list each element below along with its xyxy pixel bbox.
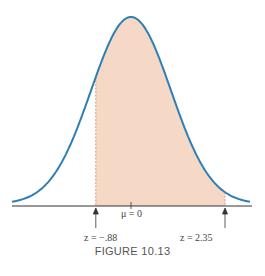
- z-left-label: z = −.88: [84, 232, 117, 243]
- normal-curve-figure: [0, 0, 265, 276]
- z-right-label: z = 2.35: [180, 232, 213, 243]
- figure-caption: FIGURE 10.13: [0, 245, 265, 257]
- shaded-area: [96, 17, 225, 206]
- mu-label: μ = 0: [121, 208, 142, 219]
- right-arrow-icon: [223, 208, 228, 228]
- left-arrow-icon: [93, 208, 98, 228]
